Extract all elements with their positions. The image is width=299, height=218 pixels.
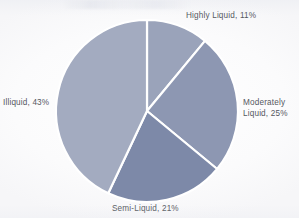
- pie-label-highly-liquid: Highly Liquid, 11%: [186, 11, 256, 22]
- pie-label-semi-liquid: Semi-Liquid, 21%: [112, 204, 179, 215]
- pie-slice-group: [56, 20, 238, 202]
- pie-label-illiquid: Illiquid, 43%: [3, 98, 49, 109]
- pie-label-moderately-liquid: Moderately Liquid, 25%: [243, 98, 288, 119]
- pie-chart-figure: Highly Liquid, 11% Moderately Liquid, 25…: [0, 0, 299, 218]
